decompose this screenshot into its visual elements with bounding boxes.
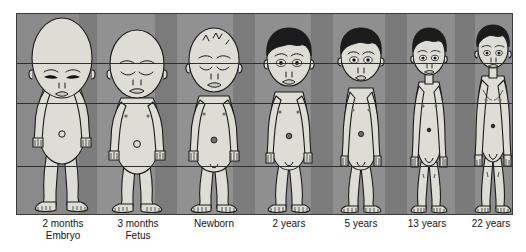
caption-line-1: 13 years xyxy=(408,218,446,229)
caption-line-1: 22 years xyxy=(472,218,510,229)
proportion-reference-line-3 xyxy=(17,166,512,167)
figure-fetus-3-months xyxy=(99,14,175,214)
figure-embryo-2-months xyxy=(23,14,101,214)
caption-line-1: 2 months xyxy=(42,218,83,229)
proportion-reference-line-1 xyxy=(17,63,512,64)
illustration-panel xyxy=(16,13,513,215)
figure-teen-13-years xyxy=(397,14,461,214)
caption-adult-22-years: 22 years xyxy=(446,218,526,230)
figure-newborn xyxy=(177,14,251,214)
figure-child-5-years xyxy=(327,14,395,214)
caption-line-1: 3 months xyxy=(117,218,158,229)
figure-adult-22-years xyxy=(462,14,513,214)
caption-line-1: 5 years xyxy=(345,218,378,229)
human-growth-proportion-figure: 2 months Embryo 3 months Fetus Newborn 2… xyxy=(0,0,526,252)
caption-row: 2 months Embryo 3 months Fetus Newborn 2… xyxy=(16,218,513,252)
figure-child-2-years xyxy=(253,14,325,214)
caption-line-2: Fetus xyxy=(91,230,185,242)
caption-line-1: Newborn xyxy=(194,218,234,229)
proportion-reference-line-2 xyxy=(17,103,512,104)
caption-line-1: 2 years xyxy=(273,218,306,229)
